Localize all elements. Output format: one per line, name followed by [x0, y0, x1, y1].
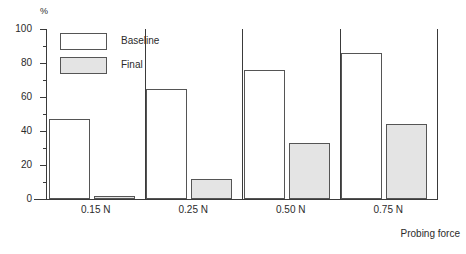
y-tick-label: 20	[8, 160, 32, 170]
bar-baseline-3	[341, 53, 382, 199]
y-tick-label: 0	[8, 194, 32, 204]
y-axis-unit-label: %	[40, 6, 48, 16]
legend-swatch-final	[60, 57, 107, 74]
y-tick-label: 100	[8, 24, 32, 34]
bar-baseline-1	[146, 89, 187, 200]
bar-final-0	[94, 196, 135, 199]
bar-chart: % 020406080100 0.15 N0.25 N0.50 N0.75 N …	[0, 0, 466, 254]
x-axis-title: Probing force	[401, 228, 460, 240]
x-axis-line	[34, 199, 438, 200]
y-tick-major	[40, 165, 47, 166]
y-tick-major	[40, 63, 47, 64]
bar-final-1	[191, 179, 232, 199]
x-category-label: 0.15 N	[47, 204, 145, 216]
bar-final-3	[386, 124, 427, 199]
legend-label-baseline: Baseline	[121, 35, 159, 47]
y-tick-major	[40, 131, 47, 132]
legend-label-final: Final	[121, 59, 143, 71]
group-separator	[437, 29, 438, 199]
y-tick-major	[40, 97, 47, 98]
y-tick-label: 60	[8, 92, 32, 102]
y-tick-major	[40, 199, 47, 200]
bar-final-2	[289, 143, 330, 199]
y-tick-label: 40	[8, 126, 32, 136]
y-tick-label: 80	[8, 58, 32, 68]
x-category-label: 0.25 N	[145, 204, 243, 216]
bar-baseline-2	[244, 70, 285, 199]
bar-baseline-0	[49, 119, 90, 199]
x-category-label: 0.75 N	[340, 204, 438, 216]
legend-swatch-baseline	[60, 33, 107, 50]
plot-area	[47, 29, 437, 199]
y-tick-major	[40, 29, 47, 30]
x-category-label: 0.50 N	[242, 204, 340, 216]
